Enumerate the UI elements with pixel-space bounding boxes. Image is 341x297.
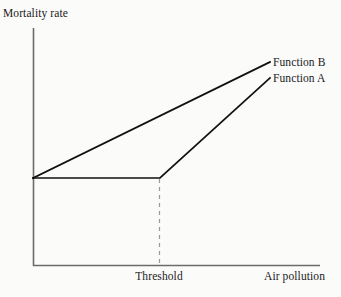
series-label-function-a: Function A [273,72,325,85]
series-label-function-b: Function B [273,56,325,69]
series-line-function-a [33,78,270,178]
x-axis-label: Air pollution [264,270,325,283]
chart-plot-area [0,0,341,297]
chart-figure: Mortality rate Air pollution Threshold F… [0,0,341,297]
threshold-tick-label: Threshold [135,270,183,283]
series-line-function-b [33,62,270,178]
y-axis-label: Mortality rate [3,7,68,20]
